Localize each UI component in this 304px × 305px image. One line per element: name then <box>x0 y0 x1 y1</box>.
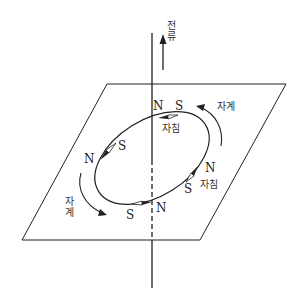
pole-left-s: S <box>118 140 126 152</box>
field-label-left: 자계 <box>63 196 73 218</box>
field-label-top: 자계 <box>217 102 235 112</box>
pole-bottom-n: N <box>156 202 167 214</box>
current-label: 전류 <box>165 20 175 42</box>
needle-label-right: 자침 <box>200 180 218 190</box>
compass-needle-right <box>186 166 198 182</box>
needle-label-top: 자침 <box>162 124 180 134</box>
field-arrow-bottom-left <box>80 173 100 212</box>
field-arrow-bottom-left-head <box>98 209 107 216</box>
pole-bottom-s: S <box>126 209 134 221</box>
field-arrow-top-right-head <box>196 104 205 111</box>
pole-right-s: S <box>184 183 192 195</box>
pole-right-n: N <box>205 162 216 174</box>
field-arrow-top-right <box>202 108 222 146</box>
pole-top-s: S <box>175 100 183 112</box>
magnetic-field-diagram <box>0 0 304 305</box>
compass-needle-top <box>158 115 178 119</box>
pole-left-n: N <box>84 153 95 165</box>
pole-top-n: N <box>153 100 164 112</box>
